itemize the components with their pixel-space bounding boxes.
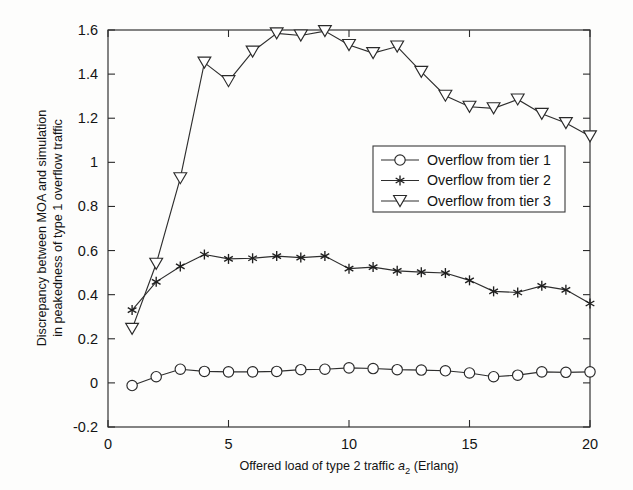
data-point — [440, 366, 450, 376]
y-tick-label: -0.2 — [73, 419, 98, 435]
figure-container: -0.200.20.40.60.811.21.41.6 05101520 Ove… — [0, 0, 633, 490]
x-tick-label: 20 — [582, 436, 598, 452]
y-tick-label: 1.6 — [78, 22, 98, 38]
data-point — [272, 366, 282, 376]
x-axis-title-pre: Offered load of type 2 traffic — [240, 459, 398, 473]
legend-label: Overflow from tier 3 — [427, 193, 551, 209]
series-1 — [127, 363, 595, 391]
legend-label: Overflow from tier 1 — [427, 152, 551, 168]
data-point — [367, 48, 380, 59]
data-point — [150, 258, 163, 269]
x-axis-title-symbol: a — [398, 459, 405, 473]
data-point — [126, 323, 139, 334]
data-point — [320, 364, 330, 374]
data-point — [561, 367, 571, 377]
data-point — [174, 173, 187, 184]
y-axis-title: Discrepancy between MOA and simulation i… — [35, 110, 65, 347]
data-point — [416, 365, 426, 375]
data-point — [392, 364, 402, 374]
y-tick-label: 0 — [90, 375, 98, 391]
series-2 — [128, 250, 595, 316]
data-point — [176, 261, 185, 271]
data-point — [535, 108, 548, 119]
x-tick-label: 15 — [461, 436, 477, 452]
data-point — [439, 90, 452, 101]
data-point — [175, 364, 185, 374]
data-point — [537, 367, 547, 377]
y-tick-label: 1 — [90, 154, 98, 170]
data-point — [391, 41, 404, 52]
data-point — [199, 366, 209, 376]
data-point — [560, 118, 573, 129]
line-chart: -0.200.20.40.60.811.21.41.6 05101520 Ove… — [0, 0, 633, 490]
data-point — [465, 275, 474, 285]
legend-label: Overflow from tier 2 — [427, 172, 551, 188]
data-point — [151, 372, 161, 382]
data-point — [296, 364, 306, 374]
x-axis-title-post: (Erlang) — [410, 459, 458, 473]
data-point — [319, 26, 332, 37]
x-tick-label: 5 — [224, 436, 232, 452]
x-axis-title: Offered load of type 2 traffic a2 (Erlan… — [240, 459, 459, 476]
data-point — [584, 131, 597, 142]
y-tick-label: 0.4 — [78, 287, 98, 303]
data-point — [464, 368, 474, 378]
data-point — [344, 363, 354, 373]
data-point — [247, 367, 257, 377]
y-tick-label: 1.2 — [78, 110, 98, 126]
svg-text:Offered load of type 2 traffic: Offered load of type 2 traffic a2 (Erlan… — [240, 459, 459, 476]
y-axis-title-line1: Discrepancy between MOA and simulation — [35, 110, 49, 347]
x-tick-label: 0 — [104, 436, 112, 452]
data-point — [343, 39, 356, 50]
series-line — [132, 255, 590, 311]
y-tick-label: 0.2 — [78, 331, 98, 347]
x-tick-label: 10 — [341, 436, 357, 452]
chart-legend[interactable]: Overflow from tier 1Overflow from tier 2… — [373, 146, 565, 212]
data-point — [513, 370, 523, 380]
y-axis-title-line2: in peakedness of type 1 overflow traffic — [51, 119, 65, 336]
legend-marker-circle-icon — [395, 155, 405, 165]
data-point — [223, 367, 233, 377]
x-axis-tick-labels: 05101520 — [104, 436, 598, 452]
y-axis-tick-labels: -0.200.20.40.60.811.21.41.6 — [73, 22, 98, 435]
y-tick-label: 0.8 — [78, 198, 98, 214]
data-point — [127, 380, 137, 390]
data-point — [246, 46, 259, 57]
data-point — [368, 363, 378, 373]
data-point — [222, 76, 235, 87]
y-tick-label: 0.6 — [78, 243, 98, 259]
data-point — [488, 372, 498, 382]
data-point — [511, 94, 524, 105]
data-point — [586, 298, 595, 308]
y-tick-label: 1.4 — [78, 66, 98, 82]
data-point — [585, 367, 595, 377]
